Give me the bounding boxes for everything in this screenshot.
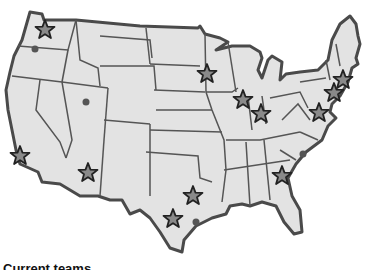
dot-marker-icon: Charlotte (300, 151, 307, 158)
dot-marker-icon: Houston area (193, 219, 200, 226)
us-map: SeattleMinneapolisChicagoIndianapolisBos… (0, 0, 370, 260)
dot-marker-icon: Portland (32, 46, 39, 53)
dot-marker-icon: Salt Lake City (83, 99, 90, 106)
caption: Current teams (3, 261, 91, 270)
